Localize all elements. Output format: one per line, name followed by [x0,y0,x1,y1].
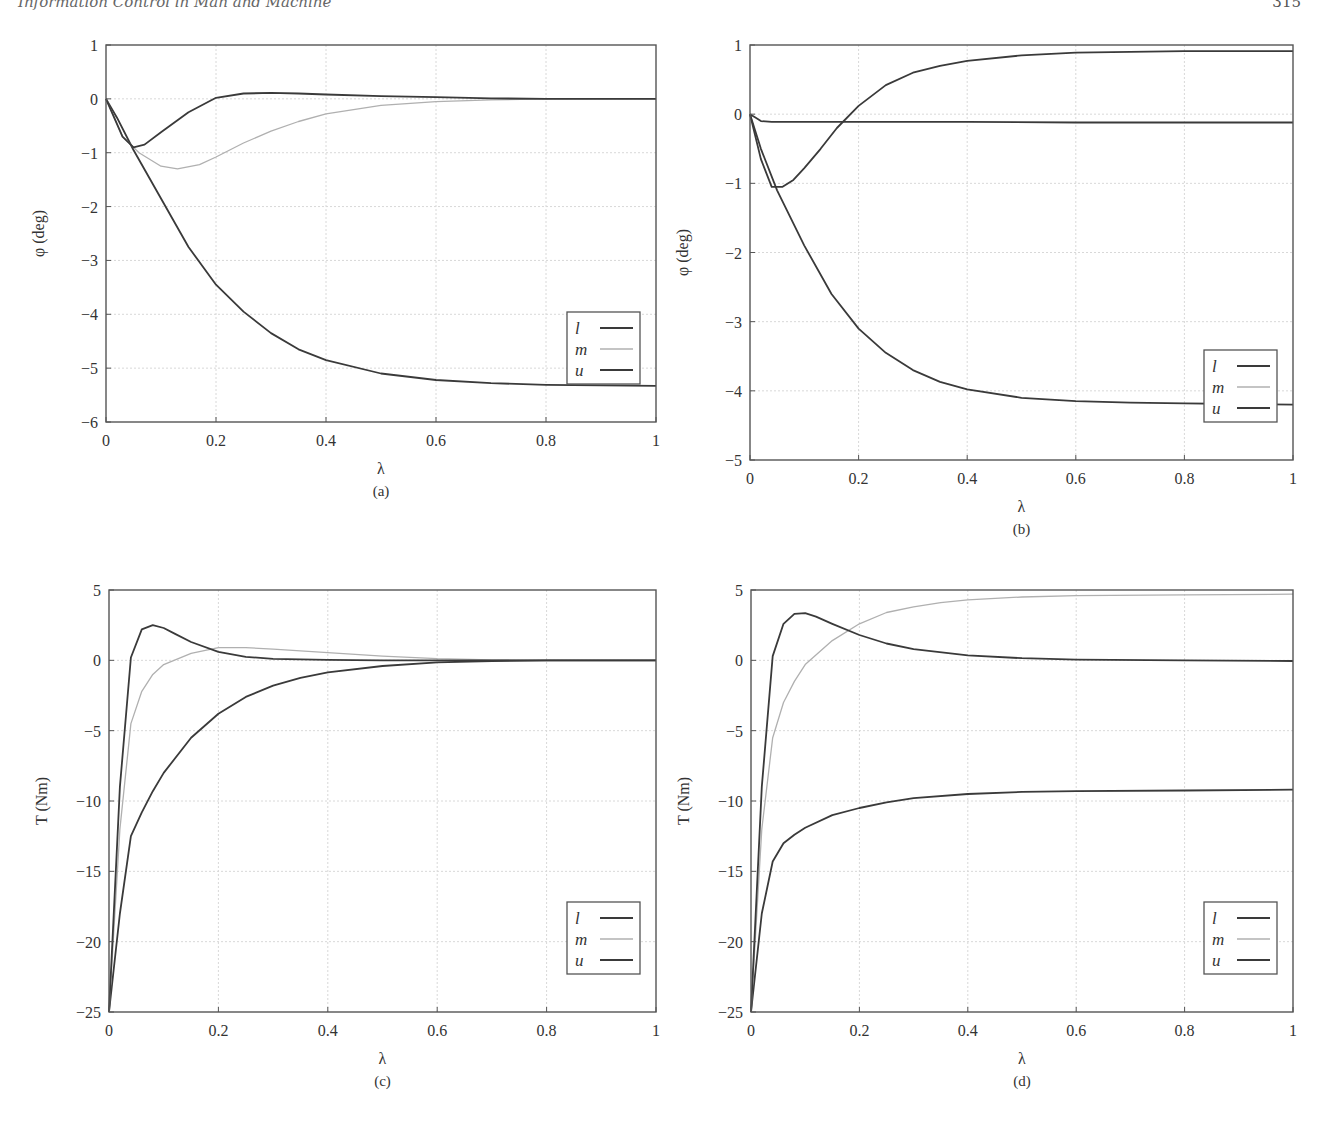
y-tick-label: −3 [725,314,742,331]
chart-panel-d: 00.20.40.60.8150−5−10−15−20−25λT (Nm)(d)… [675,582,1297,1090]
y-tick-label: 5 [735,582,743,599]
legend-label-l: l [1212,909,1217,928]
y-tick-label: 1 [90,37,98,54]
legend-label-u: u [575,951,584,970]
x-tick-label: 0.8 [1174,470,1194,487]
legend-label-l: l [575,909,580,928]
y-tick-label: 0 [90,91,98,108]
subfigure-caption: (b) [1013,521,1031,538]
x-tick-label: 0 [747,1022,755,1039]
legend-label-l: l [1212,357,1217,376]
y-tick-label: −20 [76,934,101,951]
x-axis-label: λ [379,1050,387,1067]
y-axis-label: T (Nm) [33,777,51,825]
y-tick-label: −4 [81,306,98,323]
legend-label-m: m [1212,378,1224,397]
series-m-line [106,99,656,169]
subfigure-caption: (d) [1013,1073,1031,1090]
subfigure-caption: (a) [373,483,390,500]
x-tick-label: 0.6 [427,1022,447,1039]
x-tick-label: 0.8 [1175,1022,1195,1039]
y-tick-label: −25 [718,1004,743,1021]
legend: lmu [567,312,640,384]
x-tick-label: 0.2 [849,1022,869,1039]
x-tick-label: 0.2 [849,470,869,487]
legend: lmu [1204,902,1277,974]
x-tick-label: 0.8 [536,432,556,449]
y-axis-ticks: 50−5−10−15−20−25 [76,582,114,1021]
y-tick-label: 1 [734,37,742,54]
y-tick-label: −1 [81,145,98,162]
y-tick-label: −15 [76,863,101,880]
x-tick-label: 0.4 [316,432,336,449]
chart-panel-c: 00.20.40.60.8150−5−10−15−20−25λT (Nm)(c)… [33,582,660,1090]
x-tick-label: 1 [652,432,660,449]
y-axis-label: φ (deg) [30,210,48,257]
y-tick-label: −1 [725,175,742,192]
y-axis-label: T (Nm) [675,777,693,825]
x-tick-label: 0.4 [957,470,977,487]
x-tick-label: 0.4 [318,1022,338,1039]
x-tick-label: 0.2 [206,432,226,449]
chart-panel-a: 00.20.40.60.8110−1−2−3−4−5−6λφ (deg)(a)l… [30,37,660,500]
y-tick-label: 0 [93,652,101,669]
y-tick-label: −2 [81,199,98,216]
y-tick-label: −15 [718,863,743,880]
x-tick-label: 0 [105,1022,113,1039]
legend-label-m: m [1212,930,1224,949]
y-tick-label: −10 [76,793,101,810]
y-tick-label: 0 [734,106,742,123]
y-tick-label: −2 [725,245,742,262]
y-tick-label: −20 [718,934,743,951]
x-tick-label: 1 [652,1022,660,1039]
series-u-line [750,51,1293,187]
figure: 00.20.40.60.8110−1−2−3−4−5−6λφ (deg)(a)l… [0,0,1331,1121]
x-tick-label: 0 [746,470,754,487]
y-tick-label: −6 [81,414,98,431]
series-l-line [751,790,1293,1012]
x-tick-label: 0.8 [537,1022,557,1039]
legend-label-m: m [575,340,587,359]
x-tick-label: 0.4 [958,1022,978,1039]
y-tick-label: −10 [718,793,743,810]
x-tick-label: 1 [1289,1022,1297,1039]
x-tick-label: 0 [102,432,110,449]
y-axis-ticks: 50−5−10−15−20−25 [718,582,756,1021]
x-axis-label: λ [1018,1050,1026,1067]
x-axis-label: λ [1018,498,1026,515]
y-tick-label: 0 [735,652,743,669]
y-tick-label: 5 [93,582,101,599]
legend-label-l: l [575,319,580,338]
y-tick-label: −5 [81,360,98,377]
legend: lmu [1204,350,1277,422]
y-tick-label: −5 [725,452,742,469]
y-tick-label: −4 [725,383,742,400]
x-tick-label: 1 [1289,470,1297,487]
series-m-line [750,114,1293,122]
x-tick-label: 0.6 [426,432,446,449]
legend-label-m: m [575,930,587,949]
x-tick-label: 0.6 [1066,470,1086,487]
subfigure-caption: (c) [374,1073,391,1090]
series-u-line [106,93,656,147]
x-tick-label: 0.6 [1066,1022,1086,1039]
chart-panel-b: 00.20.40.60.8110−1−2−3−4−5λφ (deg)(b)lmu [674,37,1297,538]
x-tick-label: 0.2 [208,1022,228,1039]
x-axis-label: λ [377,460,385,477]
y-axis-label: φ (deg) [674,229,692,276]
legend-label-u: u [575,361,584,380]
y-tick-label: −3 [81,252,98,269]
legend-label-u: u [1212,399,1221,418]
legend: lmu [567,902,640,974]
y-tick-label: −5 [726,723,743,740]
y-tick-label: −25 [76,1004,101,1021]
legend-label-u: u [1212,951,1221,970]
y-tick-label: −5 [84,723,101,740]
